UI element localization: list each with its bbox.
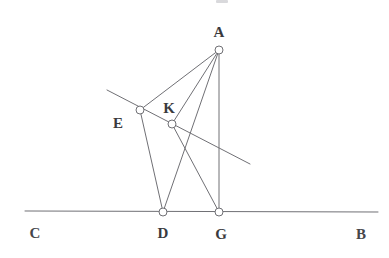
segments-group bbox=[25, 50, 378, 212]
segment-K-G bbox=[172, 124, 219, 212]
vertex-marker-K bbox=[168, 120, 176, 128]
point-label-K: K bbox=[163, 101, 175, 116]
vertex-marker-G bbox=[215, 208, 223, 216]
point-label-A: A bbox=[214, 25, 225, 40]
vertex-marker-E bbox=[136, 106, 144, 114]
ray-endpoint-label-B: B bbox=[356, 227, 366, 242]
vertex-marker-A bbox=[215, 46, 223, 54]
point-label-E: E bbox=[113, 116, 123, 131]
geometry-diagram: A E K D G C B bbox=[0, 0, 389, 258]
segment-A-D bbox=[163, 50, 219, 212]
segment-A-K bbox=[172, 50, 219, 124]
vertex-marker-D bbox=[159, 208, 167, 216]
oblique-line-through-E-K bbox=[107, 90, 250, 164]
segment-A-E bbox=[140, 50, 219, 110]
geometry-canvas bbox=[0, 0, 389, 258]
vertex-markers-group bbox=[136, 46, 223, 216]
point-label-G: G bbox=[215, 227, 227, 242]
segment-E-D bbox=[140, 110, 163, 212]
baseline-CB bbox=[25, 211, 378, 212]
point-label-D: D bbox=[158, 226, 169, 241]
ray-endpoint-label-C: C bbox=[30, 226, 41, 241]
